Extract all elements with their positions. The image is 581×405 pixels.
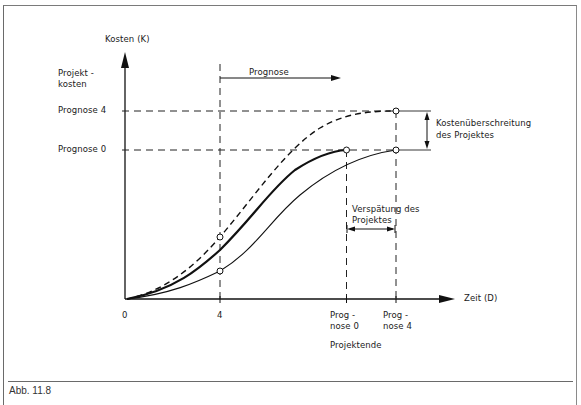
cost-overrun-arrow xyxy=(425,112,430,149)
x-tick-prognose-0-line1: Prog - xyxy=(330,310,355,321)
marker-actual-end xyxy=(393,147,399,153)
marker-dashed-at-4 xyxy=(217,234,223,240)
marker-circles xyxy=(217,108,399,274)
y-axis-arrow-icon xyxy=(121,52,129,68)
y-sublabel-line1: Projekt - xyxy=(58,68,94,79)
y-tick-prognose-4: Prognose 4 xyxy=(58,105,106,116)
cost-overrun-label-line2: des Projektes xyxy=(436,130,494,141)
curve-plan-thick xyxy=(127,150,347,299)
x-tick-prognose-4-line2: nose 4 xyxy=(383,321,412,332)
x-axis xyxy=(125,295,455,303)
reference-lines xyxy=(122,64,396,303)
y-axis-label: Kosten (K) xyxy=(105,34,150,45)
y-axis xyxy=(121,52,129,299)
delay-arrow xyxy=(347,225,395,233)
x-axis-label: Zeit (D) xyxy=(464,293,497,304)
x-tick-prognose-0-line2: nose 0 xyxy=(330,321,359,332)
prognose-arrow-label: Prognose xyxy=(249,67,289,78)
x-tick-4: 4 xyxy=(217,310,223,321)
marker-prognose-0-end xyxy=(344,147,350,153)
x-group-label-projektende: Projektende xyxy=(330,340,382,351)
delay-label-line1: Verspätung des xyxy=(352,204,420,215)
marker-thin-at-4 xyxy=(217,268,223,274)
cost-overrun-label-line1: Kostenüberschreitung xyxy=(436,118,531,129)
figure-caption: Abb. 11.8 xyxy=(9,385,51,396)
x-tick-origin: 0 xyxy=(122,310,128,321)
y-tick-prognose-0: Prognose 0 xyxy=(58,144,106,155)
x-tick-prognose-4-line1: Prog - xyxy=(383,310,408,321)
marker-prognose-4-end xyxy=(393,108,399,114)
x-axis-arrow-icon xyxy=(439,295,455,303)
y-sublabel-line2: kosten xyxy=(58,79,87,90)
delay-label-line2: Projektes xyxy=(352,215,392,226)
